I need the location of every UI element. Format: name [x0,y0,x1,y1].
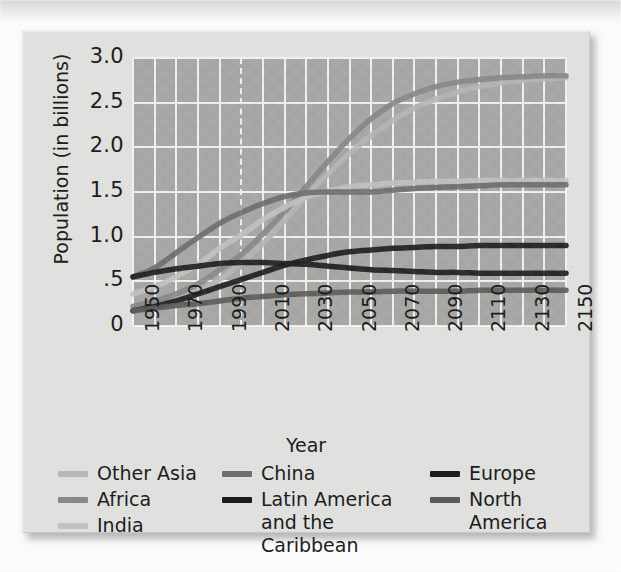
legend-swatch-icon [430,497,460,503]
chart-legend: Other AsiaAfricaIndia ChinaLatin America… [22,462,590,532]
legend-label: Other Asia [97,462,197,485]
legend-item[interactable]: Europe [430,462,580,485]
legend-swatch-icon [58,523,88,529]
scan-smudge [0,0,621,22]
legend-item[interactable]: North America [430,488,580,534]
legend-item[interactable]: Latin America and the Caribbean [222,488,437,557]
y-axis-tick-label: 3.0 [54,44,124,68]
legend-swatch-icon [58,497,88,503]
legend-label: North America [469,488,547,534]
plot-region: Population (in billions) 3.02.52.01.51.0… [22,30,590,390]
x-axis-tick-label: 2150 [574,308,596,332]
legend-swatch-icon [222,471,252,477]
scanned-page-background: Population (in billions) 3.02.52.01.51.0… [0,0,621,572]
legend-column-2: ChinaLatin America and the Caribbean [222,462,437,560]
x-axis-tick-label: 2030 [314,308,336,332]
figure-card: Population (in billions) 3.02.52.01.51.0… [22,30,590,533]
legend-label: China [261,462,315,485]
legend-item[interactable]: Other Asia [58,462,228,485]
legend-column-3: EuropeNorth America [430,462,580,537]
series-line [133,262,566,276]
legend-label: Africa [97,488,151,511]
x-axis-tick-label: 1950 [141,308,163,332]
x-axis-tick-label: 2010 [271,308,293,332]
legend-item[interactable]: Africa [58,488,228,511]
legend-item[interactable]: China [222,462,437,485]
legend-swatch-icon [430,471,460,477]
legend-column-1: Other AsiaAfricaIndia [58,462,228,540]
y-axis-tick-label: .5 [54,267,124,291]
x-axis-tick-label: 2050 [358,308,380,332]
x-axis-tick-label: 2130 [531,308,553,332]
x-axis-tick-label: 2110 [487,308,509,332]
y-axis-tick-label: 0 [54,312,124,336]
legend-item[interactable]: India [58,514,228,537]
legend-label: Latin America and the Caribbean [261,488,437,557]
y-axis-tick-label: 2.0 [54,133,124,157]
x-axis-tick-label: 2070 [401,308,423,332]
y-axis-tick-label: 2.5 [54,89,124,113]
legend-label: Europe [469,462,536,485]
x-axis-tick-label: 1970 [184,308,206,332]
legend-swatch-icon [58,471,88,477]
x-axis-title: Year [22,434,590,456]
x-axis-tick-label: 2090 [444,308,466,332]
x-axis-tick-label: 1990 [228,308,250,332]
y-axis-tick-label: 1.0 [54,223,124,247]
legend-swatch-icon [222,497,252,503]
legend-label: India [97,514,144,537]
y-axis-tick-label: 1.5 [54,178,124,202]
